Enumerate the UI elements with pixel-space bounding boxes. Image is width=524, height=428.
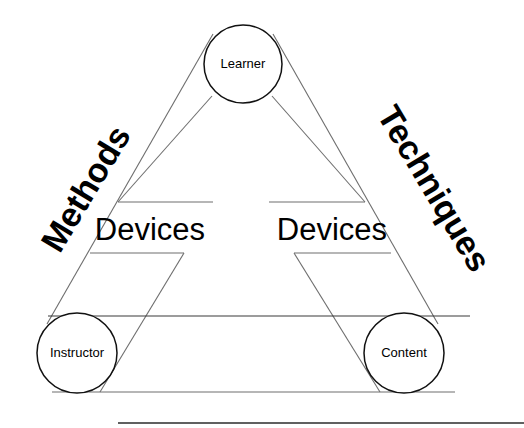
diagram-svg: Learner Instructor Content Methods Techn…	[0, 0, 524, 428]
node-learner[interactable]: Learner	[204, 25, 282, 103]
devices-right-label: Devices	[277, 212, 387, 247]
techniques-inner-edge-lower	[294, 253, 380, 392]
techniques-inner-edge-upper	[272, 96, 365, 202]
instructor-label: Instructor	[50, 345, 105, 360]
methods-inner-edge-upper	[118, 96, 212, 202]
techniques-edge-label: Techniques	[370, 99, 499, 278]
content-label: Content	[381, 345, 427, 360]
node-instructor[interactable]: Instructor	[37, 313, 117, 393]
node-content[interactable]: Content	[364, 313, 444, 393]
learner-label: Learner	[221, 56, 266, 71]
devices-left-label: Devices	[95, 212, 205, 247]
diagram-canvas: Learner Instructor Content Methods Techn…	[0, 0, 524, 428]
